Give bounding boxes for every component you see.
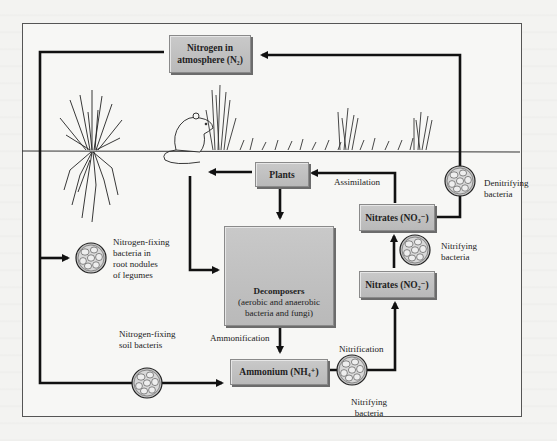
node-decomposers: Decomposers (aerobic and anaerobic bacte… bbox=[224, 226, 334, 326]
label-nitrogen-fixing-soil: Nitrogen-fixing soil bacteris bbox=[119, 329, 176, 351]
node-label: (aerobic and anaerobic bbox=[238, 297, 320, 308]
label-line: bacteria bbox=[484, 189, 529, 200]
grass-icon bbox=[206, 85, 432, 150]
label-assimilation: Assimilation bbox=[334, 177, 380, 188]
node-nitrates-no3: Nitrates (NO₃⁻) bbox=[359, 204, 435, 231]
label-line: soil bacteris bbox=[119, 340, 176, 351]
bacteria-cluster-icon bbox=[132, 368, 162, 398]
label-line: Nitrifying bbox=[441, 241, 477, 252]
grass-plant-icon bbox=[60, 90, 122, 222]
label-nitrifying-bacteria-upper: Nitrifying bacteria bbox=[441, 241, 477, 263]
label-line: Nitrogen-fixing bbox=[113, 237, 170, 248]
label-line: of legumes bbox=[113, 270, 170, 281]
bacteria-cluster-icon bbox=[445, 166, 475, 196]
label-nitrogen-fixing-legumes: Nitrogen-fixing bacteria in root nodules… bbox=[113, 237, 170, 281]
bacteria-cluster-icon bbox=[337, 355, 367, 385]
node-ammonium: Ammonium (NH₄⁺) bbox=[230, 359, 328, 385]
node-label: Plants bbox=[269, 169, 294, 181]
node-title: Decomposers bbox=[238, 286, 320, 297]
label-denitrifying-bacteria: Denitrifying bacteria bbox=[484, 178, 529, 200]
label-nitrification: Nitrification bbox=[339, 344, 384, 355]
label-nitrifying-bacteria-lower: Nitrifying bacteria bbox=[351, 397, 387, 419]
node-label: Nitrates (NO₂⁻) bbox=[365, 279, 429, 291]
node-label: Nitrogen in bbox=[177, 42, 243, 54]
mouse-icon bbox=[164, 113, 213, 164]
bacteria-cluster-icon bbox=[76, 243, 106, 273]
label-ammonification: Ammonification bbox=[210, 333, 270, 344]
label-line: bacteria bbox=[441, 252, 477, 263]
bacteria-cluster-icon bbox=[400, 235, 430, 265]
label-line: root nodules bbox=[113, 259, 170, 270]
node-label: Nitrates (NO₃⁻) bbox=[365, 212, 429, 224]
ground-line bbox=[22, 151, 520, 152]
node-label: bacteria and fungi) bbox=[238, 308, 320, 319]
label-line: Denitrifying bbox=[484, 178, 529, 189]
label-line: Nitrifying bbox=[351, 397, 387, 408]
node-label: atmosphere (N₂) bbox=[177, 54, 243, 66]
node-nitrates-no2: Nitrates (NO₂⁻) bbox=[359, 271, 435, 298]
node-label: Ammonium (NH₄⁺) bbox=[239, 366, 318, 378]
node-plants: Plants bbox=[255, 162, 309, 187]
label-line: bacteria in bbox=[113, 248, 170, 259]
node-nitrogen-atmosphere: Nitrogen in atmosphere (N₂) bbox=[169, 35, 251, 73]
label-line: bacteria bbox=[351, 408, 387, 419]
label-line: Nitrogen-fixing bbox=[119, 329, 176, 340]
